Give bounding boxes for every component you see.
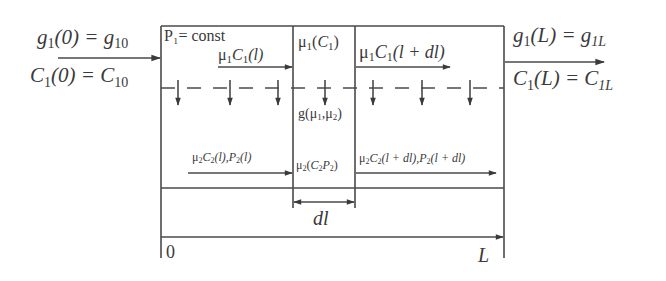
flow2-out-label: μ2C2(l + dl),P2(l + dl) — [359, 151, 465, 166]
pipe-box — [161, 26, 504, 258]
element-bottom-label: μ2(C2P2) — [296, 158, 338, 173]
outlet-g-label: g1(L) = g1L — [513, 23, 606, 49]
phase-interface — [161, 80, 504, 105]
inlet-g-label: g1(0) = g10 — [37, 25, 128, 51]
outlet-c-label: C1(L) = C1L — [513, 66, 613, 93]
axis-start-label: 0 — [166, 242, 175, 262]
flow2-in-label: μ2C2(l),P2(l) — [192, 150, 251, 165]
inlet-c-label: C1(0) = C10 — [30, 63, 128, 90]
flow1-in-label: μ1C1(l) — [218, 46, 263, 65]
element-top-label: μ1(C1) — [298, 33, 339, 52]
flow1-out-label: μ1C1(l + dl) — [359, 42, 445, 64]
pressure-const-label: P₁= const — [164, 27, 226, 44]
axis-end-label: L — [477, 244, 489, 266]
element-middle-label: g(μ1,μ2) — [298, 106, 342, 122]
element-width-label: dl — [313, 207, 329, 229]
flow-diagram: g1(0) = g10 C1(0) = C10 g1(L) = g1L C1(L… — [0, 0, 666, 281]
